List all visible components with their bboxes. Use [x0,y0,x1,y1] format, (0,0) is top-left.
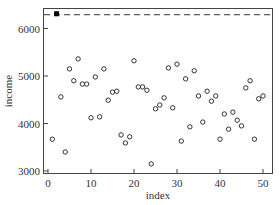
data-point [106,98,110,102]
data-point [136,85,140,89]
data-point [110,90,114,94]
data-point [115,89,119,93]
data-point [97,115,101,119]
data-point [149,162,153,166]
x-tick-label: 0 [45,177,51,189]
y-axis-label: income [2,75,14,107]
data-point [188,125,192,129]
data-point [128,135,132,139]
x-tick-label: 10 [86,177,98,189]
y-tick-label: 5000 [18,70,41,82]
plot-frame [44,9,273,174]
data-point [179,139,183,143]
data-point [153,107,157,111]
data-point [158,103,162,107]
data-point [85,82,89,86]
data-point [183,77,187,81]
data-point [257,97,261,101]
data-point [140,85,144,89]
data-point [214,94,218,98]
data-point [93,75,97,79]
x-tick-label: 20 [129,177,141,189]
data-point [235,118,239,122]
data-point [162,96,166,100]
data-point [72,79,76,83]
data-point [252,137,256,141]
data-point [89,116,93,120]
data-point [171,106,175,110]
y-tick-label: 6000 [18,23,41,35]
data-point [50,137,54,141]
data-point [226,127,230,131]
data-point [123,141,127,145]
data-point [132,59,136,63]
data-point [67,67,71,71]
data-point [205,89,209,93]
data-point [218,137,222,141]
data-point [80,82,84,86]
x-axis-ticks: 01020304050 [45,169,269,189]
income-scatter-chart: 01020304050 3000400050006000 index incom… [0,0,280,205]
data-point [244,86,248,90]
data-point [196,94,200,98]
y-tick-label: 4000 [18,118,41,130]
y-tick-label: 3000 [18,165,41,177]
data-points [50,11,265,166]
data-point [222,112,226,116]
x-tick-label: 40 [215,177,227,189]
data-point [231,110,235,114]
x-tick-label: 50 [258,177,270,189]
data-point [166,66,170,70]
data-point [239,124,243,128]
x-tick-label: 30 [172,177,184,189]
data-point [261,94,265,98]
data-point [201,120,205,124]
data-point [145,88,149,92]
data-point [63,150,67,154]
data-point [248,79,252,83]
data-point [192,69,196,73]
x-axis-label: index [146,189,171,201]
highlighted-point [54,11,59,16]
data-point [175,62,179,66]
data-point [76,57,80,61]
data-point [102,67,106,71]
data-point [119,133,123,137]
data-point [209,99,213,103]
data-point [59,95,63,99]
